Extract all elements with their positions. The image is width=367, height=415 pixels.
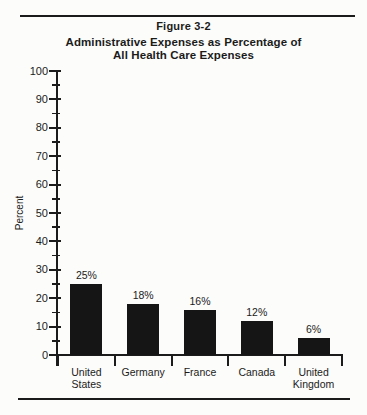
y-axis-tick-label: 40 [20, 235, 48, 248]
category-label: France [174, 366, 227, 378]
y-axis-minor-tick [52, 198, 60, 200]
x-axis-boundary-tick [341, 354, 343, 366]
y-axis-tick [49, 326, 61, 328]
y-axis-tick [49, 269, 61, 271]
y-axis-tick [49, 98, 61, 100]
y-axis-tick-label: 60 [20, 178, 48, 191]
y-axis-tick [49, 240, 61, 242]
y-axis-tick-label: 30 [20, 263, 48, 276]
y-axis-minor-tick [52, 141, 60, 143]
y-axis-tick [49, 184, 61, 186]
y-axis-tick [49, 297, 61, 299]
category-label: United States [60, 366, 113, 390]
bar-chart: Percent 010203040506070809010025%United … [0, 0, 367, 415]
x-axis-boundary-tick [227, 354, 229, 366]
bar [184, 310, 216, 355]
y-axis-tick-label: 0 [20, 349, 48, 362]
category-label: Canada [230, 366, 283, 378]
y-axis-tick [49, 127, 61, 129]
y-axis-minor-tick [52, 312, 60, 314]
y-axis-tick-label: 20 [20, 292, 48, 305]
y-axis-tick-label: 70 [20, 150, 48, 163]
y-axis-line [56, 71, 58, 366]
y-axis-tick-label: 100 [20, 65, 48, 78]
y-axis-tick-label: 90 [20, 93, 48, 106]
y-axis-minor-tick [52, 255, 60, 257]
bar [241, 321, 273, 355]
y-axis-minor-tick [52, 170, 60, 172]
y-axis-minor-tick [52, 283, 60, 285]
bar [127, 304, 159, 355]
y-axis-tick [49, 212, 61, 214]
y-axis-tick-label: 10 [20, 320, 48, 333]
y-axis-tick-label: 50 [20, 207, 48, 220]
y-axis-tick-label: 80 [20, 121, 48, 134]
category-label: Germany [117, 366, 170, 378]
bar [298, 338, 330, 355]
figure-page: Figure 3-2 Administrative Expenses as Pe… [0, 0, 367, 415]
bar-value-label: 12% [232, 306, 282, 318]
y-axis-tick [49, 70, 61, 72]
category-label: United Kingdom [287, 366, 340, 390]
y-axis-minor-tick [52, 226, 60, 228]
y-axis-minor-tick [52, 84, 60, 86]
bottom-rule [18, 398, 350, 400]
x-axis-boundary-tick [114, 354, 116, 366]
bar-value-label: 16% [175, 295, 225, 307]
x-axis-boundary-tick [57, 354, 59, 366]
bar-value-label: 6% [289, 323, 339, 335]
y-axis-minor-tick [52, 113, 60, 115]
y-axis-minor-tick [52, 340, 60, 342]
bar-value-label: 18% [118, 289, 168, 301]
y-axis-tick [49, 155, 61, 157]
bar [70, 284, 102, 355]
x-axis-boundary-tick [171, 354, 173, 366]
x-axis-boundary-tick [284, 354, 286, 366]
bar-value-label: 25% [61, 269, 111, 281]
